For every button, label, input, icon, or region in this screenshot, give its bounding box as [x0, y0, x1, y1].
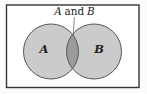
- intersection-label: AandB: [53, 5, 95, 17]
- intersection-label-conj: and: [65, 5, 85, 17]
- set-a-label: A: [39, 42, 49, 56]
- intersection-label-var-a: A: [53, 5, 62, 17]
- set-b-label: B: [93, 42, 104, 56]
- intersection-label-var-b: B: [86, 5, 95, 17]
- venn-diagram: AandB A B: [0, 0, 147, 94]
- venn-diagram-svg: AandB A B: [0, 0, 147, 94]
